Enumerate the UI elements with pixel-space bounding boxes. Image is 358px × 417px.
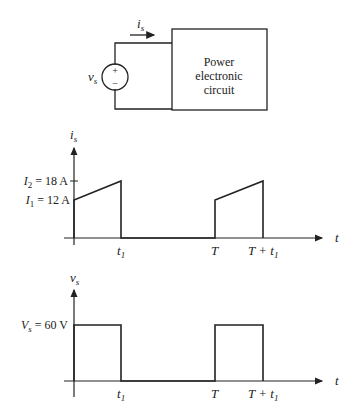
source-label: vs [88,69,98,86]
tick-label-T-plus-t1: T + t1 [248,386,278,403]
voltage-waveform [74,325,263,381]
y-axis-label: vs [70,270,80,287]
x-axis-label: t [335,230,339,245]
x-axis-label: t [335,373,339,388]
plus-sign: + [112,65,118,76]
box-label-2: electronic [195,69,242,83]
circuit: Power electronic circuit + − vs is [88,16,267,110]
top-wire [115,43,172,65]
y-axis-label: is [70,127,78,144]
label-i2: I2 = 18 A [23,174,69,190]
label-vs: Vs = 60 V [21,318,68,334]
current-label: is [137,16,145,33]
tick-label-t1: t1 [117,386,125,403]
minus-sign: − [112,78,118,89]
current-waveform [74,181,263,238]
label-i1: I1 = 12 A [25,193,71,209]
tick-label-T: T [211,386,219,401]
diagram-canvas: Power electronic circuit + − vs is is t … [0,0,358,417]
current-waveform-plot: is t I2 = 18 A I1 = 12 A t1 T T + t1 [23,127,339,260]
tick-label-T: T [211,243,219,258]
box-label-3: circuit [204,83,235,97]
tick-label-t1: t1 [117,243,125,260]
tick-label-T-plus-t1: T + t1 [248,243,278,260]
voltage-waveform-plot: vs t Vs = 60 V t1 T T + t1 [21,270,339,403]
box-label-1: Power [204,55,235,69]
bottom-wire [115,89,172,109]
